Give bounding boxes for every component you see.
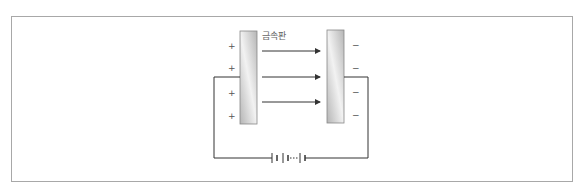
negative-charge-sign: − <box>352 88 360 97</box>
battery-icon <box>272 153 305 163</box>
capacitor-diagram <box>0 0 583 189</box>
positive-charge-sign: + <box>228 112 236 121</box>
right-metal-plate <box>327 30 344 123</box>
positive-charge-sign: + <box>228 64 236 73</box>
electric-field-arrows <box>262 51 320 102</box>
positive-charge-sign: + <box>228 42 236 51</box>
positive-charge-sign: + <box>228 89 236 98</box>
circuit-wire <box>214 77 368 158</box>
negative-charge-sign: − <box>352 41 360 50</box>
left-metal-plate <box>240 31 257 124</box>
plate-label: 금속판 <box>262 32 286 41</box>
negative-charge-sign: − <box>352 64 360 73</box>
negative-charge-sign: − <box>352 111 360 120</box>
